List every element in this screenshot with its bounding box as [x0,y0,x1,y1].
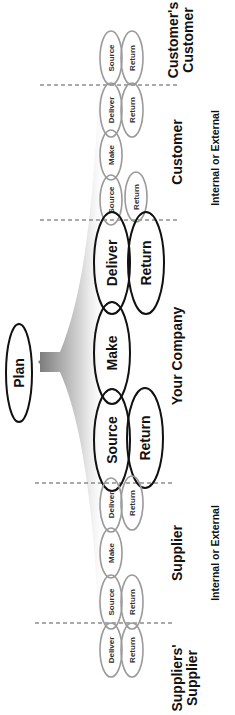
plan-arrow-icon [38,70,108,640]
process-return-label: Return [138,240,154,285]
process-source-label: Source [107,186,116,214]
process-make-label: Make [107,542,116,563]
region-title: Supplier [184,649,200,706]
process-source-label: Source [107,588,116,616]
process-return-label: Return [132,184,141,210]
region-customer: Customer Internal or External [169,110,221,206]
process-deliver-label: Deliver [107,637,116,664]
process-source-label: Source [107,44,116,72]
your-company-processes: Deliver Return Make Source Return [94,212,164,491]
region-title: Your Company [169,307,185,406]
process-source-label: Source [104,416,120,464]
supplier-processes: Deliver Return Make Source Return [100,476,143,629]
region-title: Customer's [165,2,181,79]
process-make-label: Make [107,144,116,165]
plan-label: Plan [11,358,27,388]
region-title: Customer [169,119,185,185]
process-return-label: Return [128,637,137,663]
region-supplier: Supplier Internal or External [169,505,221,601]
process-return-label: Return [128,97,137,123]
process-return-label: Return [128,490,137,516]
region-title: Suppliers' [169,644,185,711]
region-subtitle: Internal or External [209,110,221,206]
region-your-company: Your Company [169,307,185,406]
region-subtitle: Internal or External [209,505,221,601]
process-deliver-label: Deliver [107,492,116,519]
process-return-label: Return [137,415,153,460]
process-deliver-label: Deliver [107,97,116,124]
process-return-label: Return [128,589,137,615]
scor-diagram: Plan Source Return Deliver Return Make S… [0,0,235,715]
customer-processes: Deliver Return Make Source Return [100,83,147,225]
process-return-label: Return [128,45,137,71]
region-title: Supplier [169,524,185,581]
region-suppliers-supplier: Suppliers' Supplier [169,644,200,711]
process-deliver-label: Deliver [104,239,120,286]
plan-node: Plan [6,324,32,422]
region-title: Customer [180,7,196,73]
process-make-label: Make [104,335,120,370]
region-customers-customer: Customer's Customer [165,2,196,79]
